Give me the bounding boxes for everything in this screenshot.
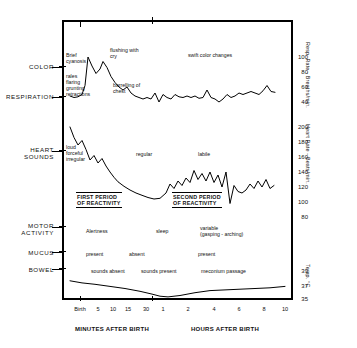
x-tickmark-1: [152, 296, 153, 301]
x-tick-hour-1: 1: [153, 306, 173, 312]
x-tick-hour-2: 2: [178, 306, 198, 312]
x-tick-hour-10: 10: [275, 306, 295, 312]
temperature-trace: [70, 281, 285, 297]
x-tick-hour-6: 6: [229, 306, 249, 312]
x-tickmark-0: [80, 296, 81, 301]
axis-tick-heart-100: 100: [290, 199, 308, 205]
x-group-hours: HOURS AFTER BIRTH: [175, 326, 275, 332]
newborn-transition-chart: SD 1084 APGAR 9 BIRTH WEIGHT: 3586 GMS. …: [0, 0, 357, 348]
axis-tick-temperature-35: 35: [290, 296, 308, 302]
x-group-minutes: MINUTES AFTER BIRTH: [62, 326, 162, 332]
respiration-trace: [70, 57, 275, 102]
x-tick-minute-Birth: Birth: [70, 306, 90, 312]
x-tick-minute-15: 15: [118, 306, 138, 312]
x-tick-hour-8: 8: [254, 306, 274, 312]
axis-tick-heart-80: 80: [290, 214, 308, 220]
axis-tick-heart-120: 120: [290, 184, 308, 190]
axis-title-respiration: Resp. Rate - Breaths/min.: [305, 42, 311, 108]
heart-rate-trace: [70, 127, 274, 204]
axis-title-heart: Heart Rate - Beats/min.: [305, 124, 311, 184]
axis-title-temperature: Temp. °C: [305, 264, 311, 287]
x-tick-hour-4: 4: [204, 306, 224, 312]
